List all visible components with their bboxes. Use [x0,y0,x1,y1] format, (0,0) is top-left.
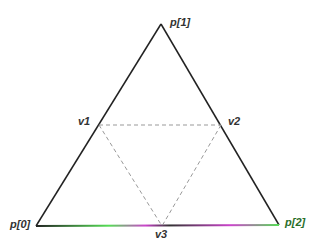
dashed-v2-v3 [162,125,221,226]
label-v1: v1 [78,116,90,127]
label-p1: p[1] [170,17,190,28]
label-v3: v3 [155,229,167,240]
label-p0: p[0] [10,219,30,230]
dashed-v1-v3 [99,125,162,226]
edge-p0-p2 [36,225,279,226]
label-p2: p[2] [285,217,305,228]
triangle-diagram [0,0,319,247]
label-v2: v2 [228,116,240,127]
